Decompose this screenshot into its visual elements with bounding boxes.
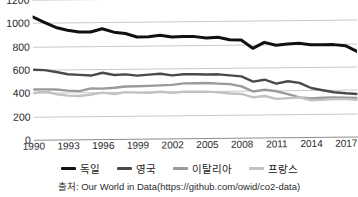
legend-label: 독일 — [80, 161, 100, 176]
legend-swatch-icon — [61, 167, 76, 170]
legend-label: 이탈리아 — [192, 161, 232, 176]
legend-item-독일[interactable]: 독일 — [61, 161, 100, 176]
x-axis-tick-1999: 1999 — [127, 140, 149, 151]
x-axis-tick-1990: 1990 — [23, 141, 45, 152]
y-axis-tick-200: 200 — [13, 110, 31, 122]
plot-area: 020040060080010001200 199019931996199920… — [0, 0, 358, 160]
x-axis-tick-2014: 2014 — [300, 138, 322, 149]
legend-swatch-icon — [173, 167, 188, 170]
series-line-독일 — [33, 14, 357, 55]
legend-label: 프랑스 — [268, 161, 298, 176]
x-axis-labels: 1990199319961999200220052008201120142017 — [34, 138, 358, 157]
legend-swatch-icon — [249, 167, 264, 170]
chart-page: 020040060080010001200 199019931996199920… — [0, 0, 358, 197]
legend-swatch-icon — [117, 167, 132, 170]
chart-legend: 독일영국이탈리아프랑스 — [0, 160, 358, 177]
x-axis-tick-1996: 1996 — [92, 140, 114, 151]
x-axis-tick-2005: 2005 — [196, 139, 218, 150]
legend-label: 영국 — [136, 161, 156, 176]
chart-lines — [32, 0, 357, 140]
legend-item-영국[interactable]: 영국 — [117, 161, 156, 176]
y-axis-tick-1000: 1000 — [6, 17, 29, 29]
x-axis-tick-2011: 2011 — [266, 138, 288, 149]
x-axis-tick-2008: 2008 — [231, 139, 253, 150]
y-axis-tick-400: 400 — [13, 87, 31, 99]
y-axis-tick-800: 800 — [12, 40, 30, 52]
source-note: 출처: Our World in Data(https://github.com… — [0, 179, 358, 193]
x-axis-tick-2002: 2002 — [162, 139, 184, 150]
y-axis-labels: 020040060080010001200 — [0, 0, 34, 140]
y-axis-tick-1200: 1200 — [6, 0, 29, 6]
legend-item-이탈리아[interactable]: 이탈리아 — [173, 161, 232, 176]
legend-item-프랑스[interactable]: 프랑스 — [249, 161, 298, 176]
x-axis-tick-1993: 1993 — [57, 140, 79, 151]
y-axis-tick-600: 600 — [13, 64, 31, 76]
x-axis-tick-2017: 2017 — [335, 138, 357, 149]
